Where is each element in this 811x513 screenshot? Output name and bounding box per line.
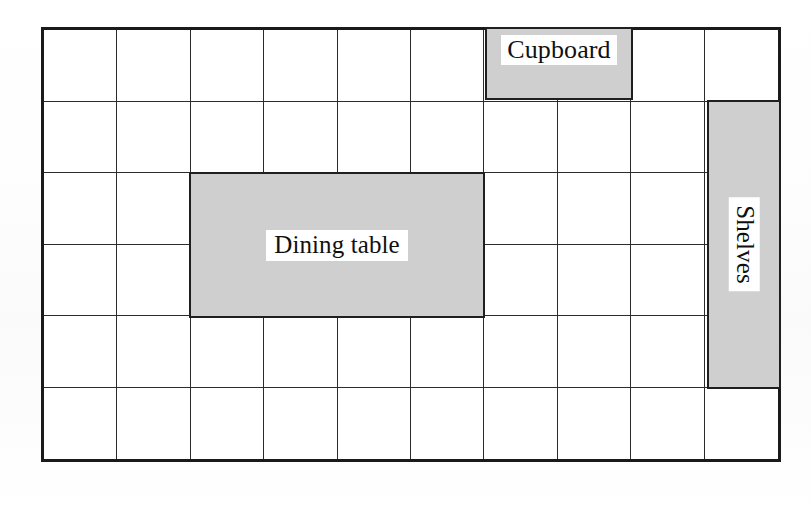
grid-cell — [484, 173, 557, 245]
grid-cell — [631, 173, 704, 245]
grid-cell — [631, 102, 704, 174]
grid-cell — [631, 388, 704, 460]
grid-cell — [411, 316, 484, 388]
grid-cell — [411, 102, 484, 174]
grid-cell — [117, 173, 190, 245]
grid-cell — [338, 102, 411, 174]
furniture-shelves-label: Shelves — [729, 197, 760, 291]
grid-cell — [117, 102, 190, 174]
grid-cell — [705, 30, 778, 102]
grid-cell — [44, 245, 117, 317]
grid-cell — [44, 173, 117, 245]
grid-cell — [191, 316, 264, 388]
grid-cell — [411, 30, 484, 102]
grid-cell — [44, 388, 117, 460]
furniture-dining-table-label: Dining table — [266, 230, 407, 261]
grid-cell — [558, 245, 631, 317]
grid-cell — [631, 30, 704, 102]
furniture-dining-table: Dining table — [189, 172, 485, 318]
grid-cell — [264, 102, 337, 174]
grid-cell — [117, 30, 190, 102]
grid-cell — [264, 316, 337, 388]
furniture-cupboard: Cupboard — [485, 27, 633, 100]
grid-cell — [44, 316, 117, 388]
grid-cell — [705, 388, 778, 460]
furniture-shelves: Shelves — [707, 100, 781, 389]
grid-cell — [191, 102, 264, 174]
grid-cell — [631, 245, 704, 317]
grid-cell — [117, 316, 190, 388]
furniture-cupboard-label: Cupboard — [501, 35, 616, 65]
grid-cell — [338, 30, 411, 102]
grid-cell — [558, 316, 631, 388]
grid-cell — [338, 388, 411, 460]
grid-cell — [558, 102, 631, 174]
grid-cell — [264, 30, 337, 102]
grid-cell — [44, 102, 117, 174]
floor-plan-diagram: Cupboard Dining table Shelves — [0, 0, 811, 513]
grid-cell — [191, 388, 264, 460]
grid-cell — [484, 316, 557, 388]
grid-cell — [191, 30, 264, 102]
grid-cell — [44, 30, 117, 102]
grid-cell — [411, 388, 484, 460]
grid-cell — [558, 388, 631, 460]
grid-cell — [338, 316, 411, 388]
grid-cell — [484, 388, 557, 460]
grid-cell — [264, 388, 337, 460]
grid-cell — [117, 245, 190, 317]
grid-cell — [484, 102, 557, 174]
grid-cell — [631, 316, 704, 388]
grid-cell — [558, 173, 631, 245]
grid-cell — [117, 388, 190, 460]
grid-cell — [484, 245, 557, 317]
